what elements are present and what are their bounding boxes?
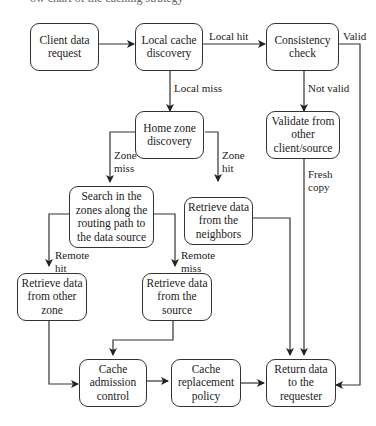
node-validate: Validate from other client/source [266,111,340,159]
node-home-zone-discovery: Home zone discovery [135,111,204,159]
node-return-data: Return data to the requester [266,359,336,407]
label-local-miss: Local miss [174,82,222,95]
node-local-cache-discovery: Local cache discovery [135,23,203,71]
label-remote-hit-1: Remote [55,249,89,262]
label-fresh-copy-1: Fresh [308,168,332,181]
node-retrieve-source: Retrieve data from the source [142,273,212,321]
label-remote-hit-2: hit [55,262,67,275]
label-zone-miss-1: Zone [114,149,137,162]
node-cache-admission-control: Cache admission control [79,359,147,407]
label-not-valid: Not valid [308,82,349,95]
label-local-hit: Local hit [209,30,248,43]
label-zone-hit-1: Zone [222,149,245,162]
node-search-zones: Search in the zones along the routing pa… [69,186,154,248]
label-fresh-copy-2: copy [308,181,329,194]
label-zone-hit-2: hit [222,162,234,175]
label-zone-miss-2: miss [114,162,134,175]
node-retrieve-neighbors: Retrieve data from the neighbors [184,197,253,245]
label-remote-miss-1: Remote [181,249,215,262]
node-client-data-request: Client data request [30,23,99,71]
label-remote-miss-2: miss [181,262,201,275]
node-retrieve-other-zone: Retrieve data from other zone [17,273,87,321]
label-valid: Valid [343,30,366,43]
node-consistency-check: Consistency check [266,23,339,71]
node-cache-replacement-policy: Cache replacement policy [171,359,241,407]
